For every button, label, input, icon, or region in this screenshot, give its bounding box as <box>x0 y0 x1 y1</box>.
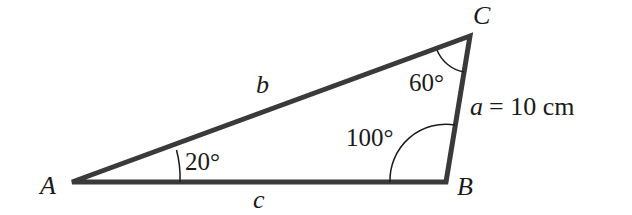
side-label-b: b <box>256 70 269 99</box>
angle-arc-A <box>177 150 181 182</box>
triangle-ABC <box>72 36 470 182</box>
vertex-label-B: B <box>457 172 473 201</box>
side-label-c: c <box>253 185 265 214</box>
side-label-a: a <box>470 92 483 121</box>
vertex-label-A: A <box>38 171 56 200</box>
angle-label-A: 20° <box>185 148 220 175</box>
angle-label-C: 60° <box>409 69 444 96</box>
side-a-value: = 10 cm <box>489 92 574 121</box>
vertex-label-C: C <box>473 1 491 30</box>
angle-label-B: 100° <box>346 124 394 151</box>
triangle-diagram: A B C b c a = 10 cm 20° 100° 60° <box>0 0 632 215</box>
